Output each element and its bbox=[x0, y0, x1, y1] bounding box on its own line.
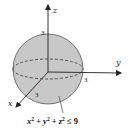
z-axis-label: z bbox=[52, 6, 58, 15]
y-axis-label: y bbox=[115, 58, 121, 67]
y-tick-3: 3 bbox=[84, 76, 88, 84]
x-axis-label: x bbox=[8, 99, 13, 108]
x-tick-3: 3 bbox=[35, 91, 39, 99]
inequality-label: x2 + y2 + z2 ≤ 9 bbox=[26, 116, 78, 127]
sphere-diagram: z y x 3 3 3 x2 + y2 + z2 ≤ 9 bbox=[0, 0, 131, 131]
z-tick-3: 3 bbox=[41, 29, 45, 37]
